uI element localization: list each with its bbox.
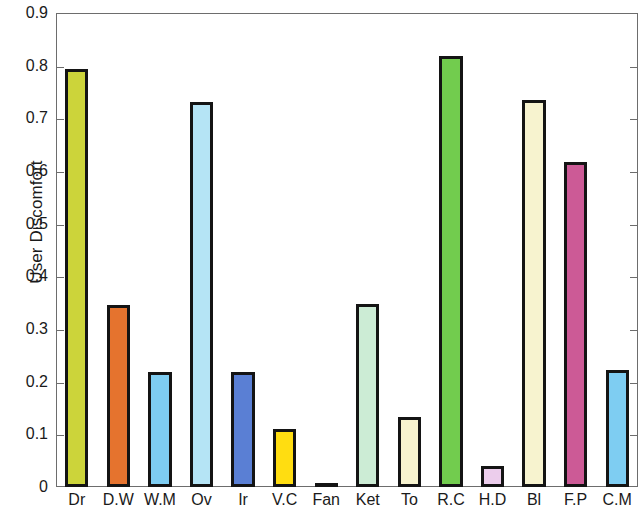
bar-chart: User Discomfort 00.10.20.30.40.50.60.70.… [0, 0, 642, 516]
y-axis-tick-label-group: 00.10.20.30.40.50.60.70.80.9 [0, 0, 48, 516]
bar [315, 483, 338, 488]
x-axis-tick-label: V.C [272, 491, 297, 509]
bar [564, 162, 587, 487]
bar [356, 304, 379, 487]
y-axis-tick-label: 0.1 [2, 425, 48, 443]
x-axis-tick-label: C.M [603, 491, 632, 509]
y-axis-tick-label: 0.5 [2, 215, 48, 233]
y-axis-tick-label: 0.9 [2, 4, 48, 22]
bar [481, 466, 504, 487]
x-axis-tick-label: F.P [564, 491, 587, 509]
y-axis-tick-label: 0.4 [2, 267, 48, 285]
x-axis-tick-label: Bl [527, 491, 541, 509]
bar [231, 372, 254, 487]
x-axis-tick-label: D.W [103, 491, 134, 509]
y-axis-tick-label: 0.7 [2, 109, 48, 127]
y-axis-tick-label: 0.6 [2, 162, 48, 180]
bar [398, 417, 421, 487]
x-axis-tick-label: Dr [68, 491, 85, 509]
bar [273, 429, 296, 487]
bars-layer [56, 13, 638, 487]
bar [65, 69, 88, 487]
y-axis-tick-label: 0.2 [2, 373, 48, 391]
x-axis-tick-label: R.C [437, 491, 465, 509]
x-axis-tick-label: W.M [144, 491, 176, 509]
y-axis-tick-label: 0.3 [2, 320, 48, 338]
bar [190, 102, 213, 487]
x-axis-tick-label: H.D [479, 491, 507, 509]
bar [148, 372, 171, 487]
x-axis-tick-label-group: DrD.WW.MOvIrV.CFanKetToR.CH.DBlF.PC.M [56, 489, 638, 516]
y-axis-tick-label: 0 [2, 478, 48, 496]
x-axis-tick-label: Ir [238, 491, 248, 509]
bar [107, 305, 130, 487]
bar [439, 56, 462, 487]
y-axis-tick-label: 0.8 [2, 57, 48, 75]
bar [606, 370, 629, 487]
x-axis-tick-label: Ket [356, 491, 380, 509]
bar [522, 100, 545, 487]
x-axis-tick-label: Fan [312, 491, 340, 509]
x-axis-tick-label: Ov [191, 491, 211, 509]
x-axis-tick-label: To [401, 491, 418, 509]
